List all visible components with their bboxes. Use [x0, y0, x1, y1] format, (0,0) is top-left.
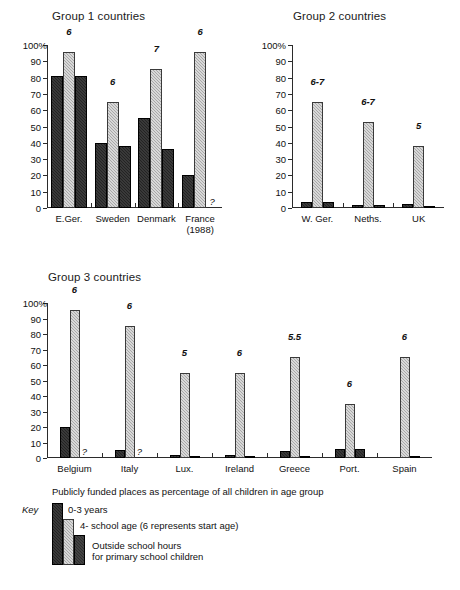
bar-value-label: 6	[237, 347, 242, 358]
legend-key-label: Key	[22, 504, 38, 515]
bar-value-label: 6	[347, 378, 352, 389]
bar	[301, 202, 312, 208]
bar: 6	[63, 52, 75, 208]
y-tick-label: 0	[36, 203, 41, 214]
y-tick-label: 80	[275, 72, 286, 83]
category-separator	[178, 203, 179, 208]
bar	[300, 456, 310, 458]
y-tick	[43, 443, 47, 444]
bar	[170, 455, 180, 458]
y-tick	[288, 61, 292, 62]
y-tick	[43, 381, 47, 382]
y-axis-line	[47, 303, 48, 458]
x-axis-label: Denmark	[137, 213, 176, 224]
axes: 0102030405060708090100%6?Belgium6?Italy5…	[47, 303, 432, 458]
bar: 5.5	[290, 357, 300, 458]
y-tick-label: 0	[281, 203, 286, 214]
bar	[335, 449, 345, 458]
legend-swatch-school-age	[63, 519, 74, 565]
y-tick-label: 20	[30, 170, 41, 181]
y-tick	[43, 412, 47, 413]
legend-label-outside-line2: for primary school children	[92, 551, 203, 562]
legend-label-0-3-years: 0-3 years	[68, 504, 108, 515]
y-tick-label: 100%	[23, 40, 47, 51]
chart-title-group1: Group 1 countries	[52, 10, 145, 22]
y-tick-label: 20	[275, 170, 286, 181]
x-axis-label: W. Ger.	[301, 213, 333, 224]
category-separator	[393, 203, 394, 208]
y-axis-line	[292, 45, 293, 208]
legend-label-outside-school-hours: Outside school hours for primary school …	[92, 540, 203, 562]
category-separator	[91, 203, 92, 208]
x-axis-label: Neths.	[354, 213, 381, 224]
y-tick	[43, 78, 47, 79]
x-axis-label: Sweden	[95, 213, 129, 224]
y-tick-label: 10	[30, 186, 41, 197]
y-tick	[288, 127, 292, 128]
bar	[355, 449, 365, 458]
y-tick-label: 60	[30, 105, 41, 116]
bar-group: 5.5	[280, 303, 310, 458]
bar-group: 6-7	[352, 45, 385, 208]
y-tick-label: 90	[275, 56, 286, 67]
y-tick	[43, 396, 47, 397]
y-tick	[43, 110, 47, 111]
y-tick	[43, 159, 47, 160]
bar-group: 6	[51, 45, 87, 208]
y-axis-line	[47, 45, 48, 208]
axes: 0102030405060708090100%6-7W. Ger.6-7Neth…	[292, 45, 444, 208]
bar: 5	[180, 373, 190, 458]
bar: 6	[235, 373, 245, 458]
plot-area-group3: 0102030405060708090100%6?Belgium6?Italy5…	[47, 303, 432, 458]
missing-data-marker: ?	[209, 196, 214, 207]
bar: 5	[413, 146, 424, 208]
bar: 6-7	[363, 122, 374, 208]
bar-value-label: 7	[154, 43, 159, 54]
bar: 6	[400, 357, 410, 458]
bar	[402, 204, 413, 208]
plot-area-group2: 0102030405060708090100%6-7W. Ger.6-7Neth…	[292, 45, 444, 208]
y-tick-label: 50	[275, 121, 286, 132]
plot-area-group1: 0102030405060708090100%6E.Ger.6Sweden7De…	[47, 45, 222, 208]
category-separator	[212, 453, 213, 458]
y-tick	[43, 208, 47, 209]
bar	[280, 451, 290, 458]
y-tick	[43, 350, 47, 351]
bar-value-label: 6	[110, 76, 115, 87]
legend-label-school-age: 4- school age (6 represents start age)	[80, 520, 238, 531]
legend-swatch-0-3-years	[52, 503, 63, 565]
chart-panel-group3: Group 3 countries 0102030405060708090100…	[0, 265, 460, 480]
category-separator	[322, 453, 323, 458]
y-tick-label: 30	[275, 154, 286, 165]
x-axis-label: Lux.	[176, 463, 194, 474]
y-tick-label: 30	[30, 406, 41, 417]
y-tick	[43, 143, 47, 144]
bar	[190, 456, 200, 458]
y-tick-label: 100%	[23, 298, 47, 309]
y-tick-label: 10	[275, 186, 286, 197]
legend-swatch-outside-school-hours	[74, 535, 85, 565]
y-tick-label: 20	[30, 422, 41, 433]
bar: 6	[125, 326, 135, 458]
category-separator	[377, 453, 378, 458]
bar-group: 6	[95, 45, 131, 208]
bar: 6	[194, 52, 206, 208]
bar	[162, 149, 174, 208]
bar-group: 7	[138, 45, 174, 208]
x-axis-label: France(1988)	[185, 213, 215, 235]
x-axis-label: UK	[412, 213, 425, 224]
x-axis-label: Spain	[392, 463, 416, 474]
bar	[225, 455, 235, 458]
x-axis-label: Greece	[279, 463, 310, 474]
chart-title-group3: Group 3 countries	[48, 271, 141, 283]
legend: Publicly funded places as percentage of …	[0, 480, 460, 590]
bar-group: 6	[390, 303, 420, 458]
y-tick	[43, 334, 47, 335]
legend-heading: Publicly funded places as percentage of …	[52, 486, 323, 497]
y-tick-label: 50	[30, 121, 41, 132]
bar	[95, 143, 107, 208]
chart-panel-group1: Group 1 countries 0102030405060708090100…	[0, 0, 250, 250]
y-tick	[288, 143, 292, 144]
y-tick-label: 90	[30, 56, 41, 67]
bar	[352, 205, 363, 208]
